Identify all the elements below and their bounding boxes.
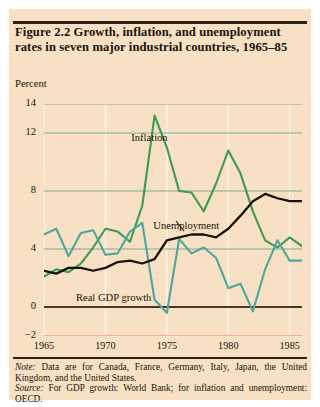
y-tick-label: 12 xyxy=(12,126,36,137)
source-body: For GDP growth: World Bank; for inflatio… xyxy=(15,383,307,404)
x-tick-label: 1985 xyxy=(268,340,312,351)
note-body: Data are for Canada, France, Germany, It… xyxy=(15,362,307,383)
figure-notes: Note: Data are for Canada, France, Germa… xyxy=(15,362,307,404)
y-axis-unit-label: Percent xyxy=(15,78,47,89)
note-line: Note: Data are for Canada, France, Germa… xyxy=(15,362,307,383)
y-tick-label: −2 xyxy=(12,329,36,340)
page-margin-top xyxy=(0,0,320,9)
figure-container: Figure 2.2 Growth, inflation, and unempl… xyxy=(0,0,320,407)
y-tick-label: 4 xyxy=(12,242,36,253)
x-tick-label: 1965 xyxy=(22,340,66,351)
notes-top-rule xyxy=(13,357,307,359)
page-margin-left xyxy=(0,0,9,407)
series-label-unemployment: Unemployment xyxy=(153,220,219,231)
y-tick-label: 0 xyxy=(12,300,36,311)
figure-title: Figure 2.2 Growth, inflation, and unempl… xyxy=(15,25,307,55)
x-tick-label: 1970 xyxy=(83,340,127,351)
y-tick-label: 8 xyxy=(12,184,36,195)
series-label-inflation: Inflation xyxy=(131,132,167,143)
source-line: Source: For GDP growth: World Bank; for … xyxy=(15,383,307,404)
x-tick-label: 1980 xyxy=(206,340,250,351)
x-tick-label: 1975 xyxy=(145,340,189,351)
note-label: Note: xyxy=(15,362,36,372)
source-label: Source: xyxy=(15,383,44,393)
page-margin-right xyxy=(311,0,320,407)
series-label-real-gdp-growth: Real GDP growth xyxy=(76,292,152,303)
title-top-rule xyxy=(13,21,307,24)
y-tick-label: 14 xyxy=(12,97,36,108)
